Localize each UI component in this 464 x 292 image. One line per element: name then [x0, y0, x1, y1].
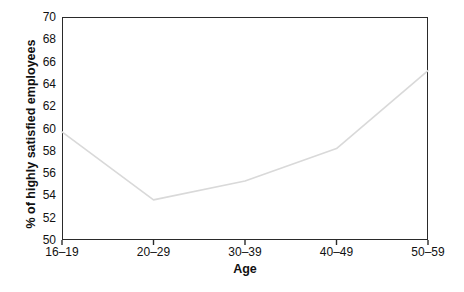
data-series-line	[62, 71, 428, 200]
x-axis-title: Age	[62, 262, 428, 276]
axis-tick-marks	[62, 240, 428, 245]
chart-figure: % of highly satisfied employees 50525456…	[0, 0, 464, 292]
chart-plot-svg	[0, 0, 464, 292]
